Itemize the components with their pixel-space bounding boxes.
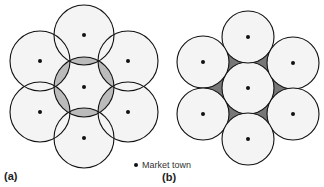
market-town-icon [134, 163, 138, 167]
legend: Market town [134, 160, 191, 170]
central-place-figure: (a) (b) Market town [0, 0, 324, 187]
market-town-dot [246, 137, 250, 141]
market-town-dot [38, 59, 42, 63]
market-town-dot [82, 85, 86, 89]
market-town-dot [246, 86, 250, 90]
market-town-dot [38, 110, 42, 114]
market-town-dot [201, 112, 205, 116]
market-town-dot [126, 110, 130, 114]
market-town-dot [126, 59, 130, 63]
market-town-dot [291, 112, 295, 116]
legend-label: Market town [142, 160, 191, 170]
panel-a-label: (a) [4, 170, 17, 182]
market-town-dot [82, 33, 86, 37]
panel-b-label: (b) [162, 171, 176, 183]
market-town-dot [201, 60, 205, 64]
market-town-dot [246, 35, 250, 39]
market-town-dot [291, 61, 295, 65]
market-area-diagram [0, 0, 324, 187]
market-town-dot [82, 136, 86, 140]
